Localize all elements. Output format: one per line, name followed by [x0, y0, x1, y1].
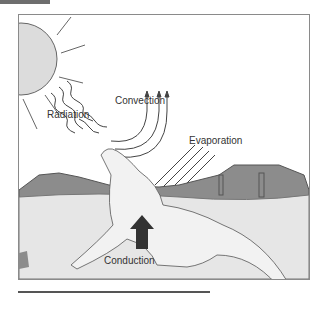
heat-transfer-diagram: Radiation Convection Evaporation Conduct…: [18, 14, 310, 280]
conduction-label: Conduction: [104, 255, 155, 266]
evaporation-label: Evaporation: [189, 135, 242, 146]
bottom-decorative-bar: [18, 291, 210, 293]
radiation-arrows-icon: [51, 81, 107, 133]
diagram-illustration: [19, 15, 309, 279]
convection-label: Convection: [115, 95, 165, 106]
radiation-label: Radiation: [47, 109, 89, 120]
top-decorative-bar: [0, 0, 50, 4]
